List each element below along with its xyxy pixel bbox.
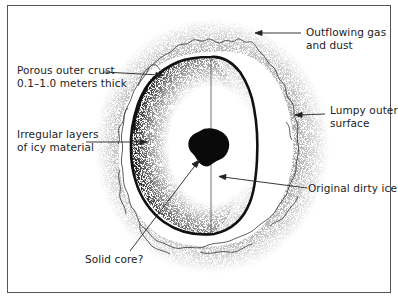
label-irregular-layers: Irregular layers of icy material [17,128,99,154]
label-line: Original dirty ice [308,182,397,195]
label-line: and dust [306,39,386,52]
label-line: surface [330,117,398,130]
label-line: Outflowing gas [306,26,386,39]
label-outflowing-gas: Outflowing gas and dust [306,26,386,52]
label-line: Porous outer crust [17,64,127,77]
label-line: Lumpy outer [330,104,398,117]
label-line: of icy material [17,141,99,154]
label-lumpy-outer-surface: Lumpy outer surface [330,104,398,130]
label-porous-outer-crust: Porous outer crust 0.1–1.0 meters thick [17,64,127,90]
label-line: Solid core? [85,253,143,266]
label-line: Irregular layers [17,128,99,141]
label-line: 0.1–1.0 meters thick [17,77,127,90]
label-solid-core: Solid core? [85,253,143,266]
label-original-dirty-ice: Original dirty ice [308,182,397,195]
